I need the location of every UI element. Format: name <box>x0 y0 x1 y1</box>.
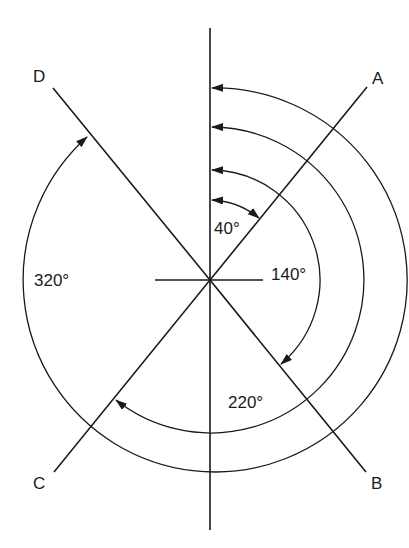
line-B <box>210 280 366 472</box>
line-A <box>210 87 367 280</box>
label-D: D <box>33 67 45 86</box>
label-A: A <box>372 69 384 88</box>
bearing-angle-diagram: A B C D 40° 140° 220° 320° <box>0 0 409 548</box>
angle-label-220: 220° <box>228 393 263 412</box>
angle-label-320: 320° <box>34 271 69 290</box>
label-B: B <box>371 474 382 493</box>
label-C: C <box>33 474 45 493</box>
line-C <box>54 280 210 472</box>
angle-label-140: 140° <box>271 265 306 284</box>
angle-label-40: 40° <box>214 219 240 238</box>
line-D <box>53 88 210 280</box>
angle-arc-40 <box>212 200 259 218</box>
